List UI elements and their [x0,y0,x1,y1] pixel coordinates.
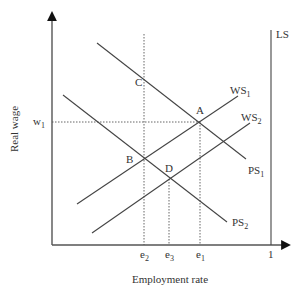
point-c-label: C [135,76,142,88]
point-a-label: A [196,104,204,116]
y-tick-w1: w1 [33,115,45,130]
x-tick-one: 1 [268,248,274,260]
x-tick-e1: e1 [196,248,205,263]
ws2-label: WS2 [241,111,262,126]
point-b-label: B [126,153,133,165]
point-d-label: D [165,162,173,174]
ls-label: LS [276,28,289,40]
labour-market-diagram: C A B D LS WS1 WS2 PS1 PS2 w1 e2 e3 e1 1… [0,0,300,293]
ps2-label: PS2 [232,216,248,231]
ps1-label: PS1 [248,164,264,179]
x-axis-title: Employment rate [132,273,208,285]
x-tick-e3: e3 [165,248,174,263]
y-axis-title: Real wage [8,106,20,152]
x-tick-e2: e2 [140,248,149,263]
ws1-label: WS1 [230,84,251,99]
